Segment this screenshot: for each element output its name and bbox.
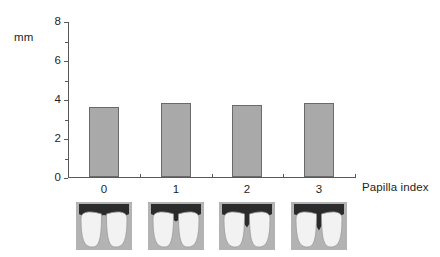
x-tick-mark — [355, 174, 356, 178]
x-tick-label-2: 2 — [244, 184, 250, 196]
y-tick-mark — [64, 139, 68, 140]
papilla-index-1-diagram — [148, 202, 204, 250]
x-tick-mark — [140, 174, 141, 178]
bar-2 — [232, 105, 262, 177]
y-tick-mark — [64, 178, 68, 179]
y-tick-label: 6 — [55, 55, 61, 67]
y-tick-label: 0 — [55, 172, 61, 184]
y-tick-mark — [65, 81, 68, 82]
x-axis-title: Papilla index — [362, 181, 429, 193]
y-tick-mark — [64, 100, 68, 101]
bar-chart-figure: mm 02468 0123 Papilla index — [0, 0, 440, 257]
y-tick-mark — [64, 61, 68, 62]
y-axis-line — [68, 22, 69, 178]
y-tick-mark — [65, 42, 68, 43]
bar-3 — [304, 103, 334, 177]
y-tick-mark — [64, 22, 68, 23]
y-tick-label: 8 — [55, 16, 61, 28]
y-tick-mark — [65, 120, 68, 121]
papilla-index-illustrations — [68, 202, 355, 250]
y-axis-title: mm — [14, 31, 34, 43]
x-tick-mark — [283, 174, 284, 178]
x-tick-label-1: 1 — [173, 184, 179, 196]
papilla-index-0-diagram — [76, 202, 132, 250]
x-tick-mark — [68, 174, 69, 178]
plot-area: 02468 0123 — [68, 22, 355, 178]
x-tick-label-0: 0 — [101, 184, 107, 196]
x-tick-label-3: 3 — [316, 184, 322, 196]
papilla-index-2-diagram — [219, 202, 275, 250]
y-tick-mark — [65, 159, 68, 160]
bar-1 — [161, 103, 191, 177]
y-tick-label: 2 — [55, 133, 61, 145]
bar-0 — [89, 107, 119, 177]
x-tick-mark — [212, 174, 213, 178]
papilla-index-3-diagram — [291, 202, 347, 250]
y-tick-label: 4 — [55, 94, 61, 106]
